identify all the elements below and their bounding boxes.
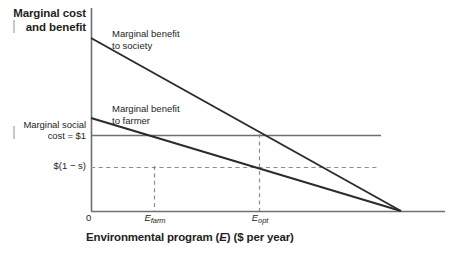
origin-label: 0 (86, 212, 91, 223)
farmer-label-line2: to farmer (112, 115, 150, 126)
x-axis-title-variable: E (219, 231, 227, 243)
farmer-label-line1: Marginal benefit (112, 103, 180, 114)
marginal-benefit-to-society-label: Marginal benefit to society (112, 28, 180, 52)
marginal-benefit-to-farmer-label: Marginal benefit to farmer (112, 103, 180, 127)
x-axis-title-suffix: ) ($ per year) (227, 231, 294, 243)
e-farm-subscript: farm (151, 216, 166, 225)
x-axis-title-prefix: Environmental program ( (86, 231, 219, 243)
society-label-line2: to society (112, 40, 152, 51)
x-axis-title: Environmental program (E) ($ per year) (86, 231, 294, 245)
y-axis-title-line2: and benefit (26, 21, 86, 33)
society-label-line1: Marginal benefit (112, 28, 180, 39)
e-opt-tick-label: Eopt (241, 212, 279, 226)
marginal-social-cost-line2: cost = $1 (48, 130, 86, 141)
e-opt-subscript: opt (258, 216, 268, 225)
marginal-social-cost-label: Marginal social cost = $1 (2, 119, 86, 141)
marginal-social-cost-line1: Marginal social (23, 119, 86, 130)
subsidised-cost-label: $(1 − s) (2, 160, 86, 171)
e-farm-tick-label: Efarm (136, 212, 174, 226)
y-axis-title-line1: Marginal cost (13, 7, 86, 19)
y-axis-title: Marginal cost and benefit (4, 7, 86, 34)
economics-figure: Marginal cost and benefit Marginal socia… (0, 0, 458, 255)
marginal-benefit-to-farmer-curve (91, 118, 401, 211)
